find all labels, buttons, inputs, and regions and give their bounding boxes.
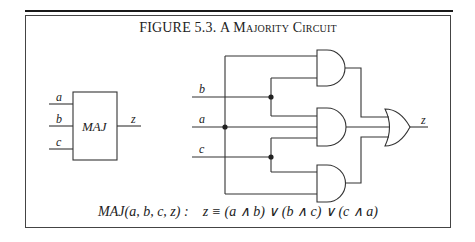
maj-label-a: a (56, 90, 62, 104)
maj-block-label: MAJ (81, 119, 108, 134)
formula-lhs: MAJ(a, b, c, z) : (98, 204, 189, 219)
circuit-label-c: c (199, 142, 205, 156)
and-gate-3 (317, 165, 346, 202)
circuit-label-a: a (199, 112, 205, 126)
maj-label-b: b (56, 112, 62, 126)
and1-to-or (345, 68, 389, 117)
maj-label-c: c (56, 135, 62, 149)
circuit-label-z: z (420, 113, 426, 127)
junction-a (222, 124, 227, 129)
maj-label-z: z (130, 112, 136, 126)
and-gate-1 (317, 50, 345, 86)
and3-to-or (345, 137, 389, 183)
and-gate-2 (317, 108, 346, 146)
circuit-label-b: b (199, 82, 205, 96)
junction-c (268, 154, 273, 159)
formula-rhs: z ≡ (a ∧ b) ∨ (b ∧ c) ∨ (c ∧ a) (203, 204, 378, 219)
formula: MAJ(a, b, c, z) : z ≡ (a ∧ b) ∨ (b ∧ c) … (25, 203, 451, 220)
junction-b (268, 94, 273, 99)
